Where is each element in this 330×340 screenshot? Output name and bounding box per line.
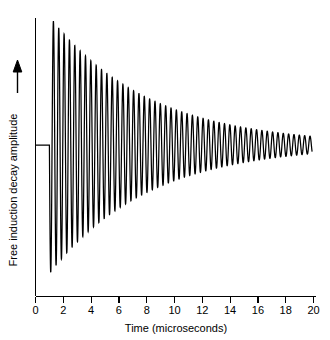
x-axis-tick-label: 14 bbox=[224, 304, 236, 316]
fid-signal-trace bbox=[36, 21, 313, 272]
x-axis-ticks bbox=[36, 297, 314, 303]
x-axis-tick-label: 10 bbox=[168, 304, 180, 316]
x-axis-group: 02468101214161820 bbox=[32, 297, 319, 317]
x-axis-tick-label: 6 bbox=[116, 304, 122, 316]
x-axis-tick-label: 20 bbox=[307, 304, 319, 316]
chart-canvas: 02468101214161820 Time (microseconds) Fr… bbox=[0, 0, 330, 340]
x-axis-tick-label: 18 bbox=[280, 304, 292, 316]
x-axis-tick-label: 16 bbox=[252, 304, 264, 316]
fid-chart-figure: 02468101214161820 Time (microseconds) Fr… bbox=[0, 0, 330, 340]
x-axis-tick-label: 12 bbox=[196, 304, 208, 316]
x-axis-tick-label: 0 bbox=[32, 304, 38, 316]
y-axis-title: Free induction decay amplitude bbox=[7, 114, 19, 267]
x-axis-tick-labels: 02468101214161820 bbox=[32, 304, 319, 316]
y-axis-direction-arrow-icon bbox=[13, 60, 22, 93]
x-axis-tick-label: 2 bbox=[60, 304, 66, 316]
x-axis-title: Time (microseconds) bbox=[125, 322, 227, 334]
x-axis-tick-label: 8 bbox=[144, 304, 150, 316]
x-axis-tick-label: 4 bbox=[88, 304, 94, 316]
